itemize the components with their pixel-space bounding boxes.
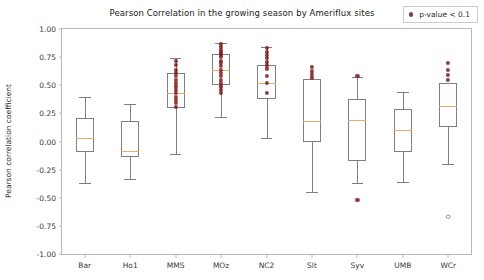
median-line — [439, 106, 457, 107]
chart-figure: Pearson Correlation in the growing seaso… — [0, 0, 484, 280]
whisker-lower — [448, 127, 449, 164]
x-axis-tick-mark — [130, 254, 131, 258]
x-axis-tick-label: NC2 — [259, 261, 275, 270]
cap-lower — [442, 164, 454, 165]
legend-label: p-value < 0.1 — [419, 10, 470, 19]
legend-marker-icon — [409, 12, 414, 17]
outlier-marker — [446, 215, 451, 220]
x-axis-tick-label: Ho1 — [123, 261, 138, 270]
x-axis-tick-label: WCr — [440, 261, 456, 270]
x-axis-tick-label: Slt — [307, 261, 317, 270]
x-axis-tick-mark — [221, 254, 222, 258]
x-axis-tick-mark — [175, 254, 176, 258]
x-axis-tick-label: UMB — [394, 261, 411, 270]
significant-point-marker — [446, 61, 450, 65]
y-axis-label: Pearson correlation coefficient — [4, 84, 13, 198]
x-axis-tick-label: Syv — [351, 261, 365, 270]
box-plot-group — [62, 29, 471, 254]
significant-point-marker — [446, 78, 450, 82]
plot-axes: 1.000.750.500.250.00-0.25-0.50-0.75-1.00… — [61, 28, 472, 255]
x-axis-tick-label: Bar — [78, 261, 91, 270]
x-axis-tick-mark — [84, 254, 85, 258]
plot-area: 1.000.750.500.250.00-0.25-0.50-0.75-1.00… — [62, 29, 471, 254]
chart-legend: p-value < 0.1 — [403, 6, 478, 23]
x-axis-tick-mark — [311, 254, 312, 258]
x-axis-tick-mark — [266, 254, 267, 258]
significant-point-marker — [446, 67, 450, 71]
x-axis-tick-mark — [357, 254, 358, 258]
x-axis-tick-mark — [402, 254, 403, 258]
x-axis-tick-mark — [448, 254, 449, 258]
x-axis-tick-label: MMS — [167, 261, 185, 270]
x-axis-tick-label: MOz — [213, 261, 229, 270]
